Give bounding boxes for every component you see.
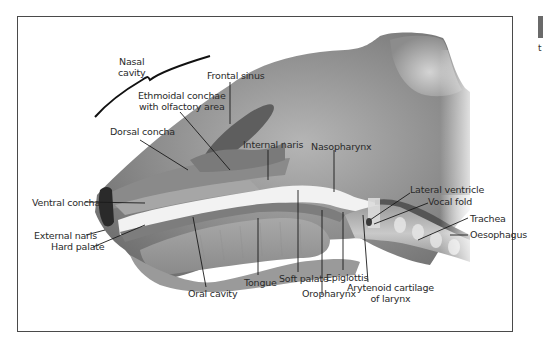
label-oral-cavity: Oral cavity xyxy=(188,288,237,299)
label-oesophagus: Oesophagus xyxy=(470,229,527,240)
label-vocal-fold: Vocal fold xyxy=(428,196,472,207)
label-dorsal-concha: Dorsal concha xyxy=(110,126,175,137)
label-ethmoidal-line2: with olfactory area xyxy=(138,101,226,112)
label-trachea: Trachea xyxy=(470,213,506,224)
label-lateral-ventricle: Lateral ventricle xyxy=(410,184,484,195)
label-nasal-cavity-line2: cavity xyxy=(118,67,145,78)
label-arytenoid-line1: Arytenoid cartilage xyxy=(347,282,434,293)
label-soft-palate: Soft palate xyxy=(279,273,328,284)
label-ventral-concha: Ventral concha xyxy=(32,197,100,208)
label-nasal-cavity: Nasal cavity xyxy=(118,56,145,78)
label-nasal-cavity-line1: Nasal xyxy=(118,56,145,67)
label-arytenoid-cartilage: Arytenoid cartilage of larynx xyxy=(347,282,434,304)
label-frontal-sinus: Frontal sinus xyxy=(207,70,265,81)
label-nasopharynx: Nasopharynx xyxy=(311,141,372,152)
label-external-naris: External naris xyxy=(34,230,97,241)
label-internal-naris: Internal naris xyxy=(243,139,303,150)
label-hard-palate: Hard palate xyxy=(51,241,104,252)
label-arytenoid-line2: of larynx xyxy=(347,293,434,304)
label-ethmoidal-line1: Ethmoidal conchae xyxy=(138,90,226,101)
label-ethmoidal-conchae: Ethmoidal conchae with olfactory area xyxy=(138,90,226,112)
label-tongue: Tongue xyxy=(244,277,277,288)
